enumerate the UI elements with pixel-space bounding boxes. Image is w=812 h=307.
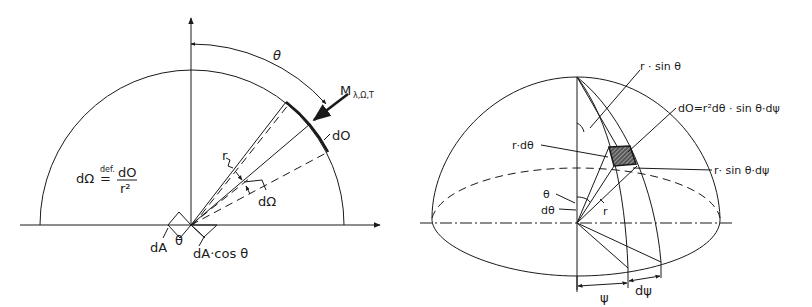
surface-element-label: dO — [332, 128, 350, 143]
ray-center — [191, 124, 310, 225]
hemisphere-dome — [432, 77, 720, 218]
equator-front — [432, 218, 720, 276]
ray-to-equator-dpsi — [577, 223, 661, 262]
projected-area-element — [191, 225, 217, 237]
angle-label: θ — [175, 233, 183, 248]
theta-label: θ — [543, 188, 550, 201]
theta-arc-label: θ — [273, 48, 281, 63]
r-dtheta-leader — [541, 145, 608, 157]
projected-area-label: dA·cos θ — [193, 246, 248, 261]
ray-lower-dashed — [191, 152, 328, 225]
radiance-label: M — [340, 83, 351, 98]
r-sin-theta-dpsi-leader — [633, 168, 712, 170]
solid-angle-tick-top — [236, 172, 242, 180]
radiance-subscript: λ,Ω,T — [353, 91, 374, 100]
equator-back — [432, 168, 720, 218]
definition-lhs: dΩ — [76, 171, 94, 186]
solid-angle-label: dΩ — [258, 194, 276, 209]
r-sin-theta-dpsi-label: r· sin θ·dψ — [714, 164, 769, 177]
dpsi-label: dψ — [635, 283, 652, 298]
definition-denominator: r² — [120, 181, 131, 196]
solid-angle-tick-bottom — [246, 186, 250, 194]
surface-element-formula: dO=r²dθ · sin θ·dψ — [678, 102, 780, 115]
psi-dimension — [578, 283, 627, 286]
theta-arc — [191, 44, 326, 104]
right-angle-mark — [577, 123, 584, 132]
left-figure-solid-angle: θ M λ,Ω,T dO r dΩ dΩ = def. dO r² dA θ d… — [20, 18, 380, 261]
dpsi-dimension — [629, 276, 660, 281]
projected-edge — [191, 225, 205, 238]
right-figure-spherical-element: r · sin θ dO=r²dθ · sin θ·dψ r·dθ r· sin… — [420, 60, 780, 305]
psi-label: ψ — [600, 290, 609, 305]
surface-element-leader — [324, 134, 330, 140]
hemisphere-outline — [40, 70, 344, 225]
theta-leader — [556, 194, 575, 203]
r-dtheta-label: r·dθ — [512, 139, 534, 152]
radius-label-right: r — [603, 205, 608, 218]
dO-leader — [628, 108, 676, 152]
ray-to-equator-psi — [577, 223, 628, 268]
meridian-psi — [577, 77, 628, 268]
dtheta-label: dθ — [541, 204, 555, 217]
definition-numerator: dO — [118, 165, 136, 180]
diagram-canvas: θ M λ,Ω,T dO r dΩ dΩ = def. dO r² dA θ d… — [0, 0, 812, 307]
solid-angle-definition: dΩ = def. dO r² — [76, 165, 137, 196]
dA-leader — [163, 228, 168, 238]
area-label: dA — [150, 240, 167, 255]
r-sin-theta-label: r · sin θ — [640, 60, 681, 73]
dtheta-leader — [559, 209, 576, 210]
radius-label: r — [222, 148, 228, 163]
dA-cos-leader — [199, 237, 204, 246]
definition-operator-superscript: def. — [100, 165, 115, 174]
ray-to-element-bottom — [577, 166, 614, 223]
